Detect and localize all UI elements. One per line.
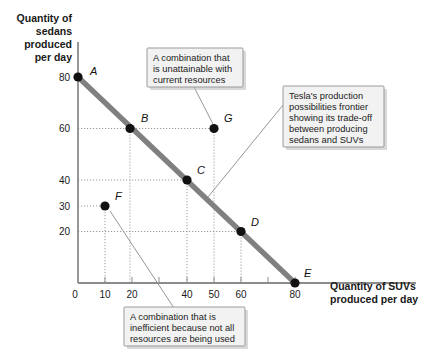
callout-frontier-line-2: possibilities frontier: [289, 102, 368, 112]
y-axis-title-line-3: produced: [24, 38, 72, 50]
y-axis-title-line-2: sedans: [36, 25, 72, 37]
ytick-label-80: 80: [59, 72, 71, 83]
point-label-c: C: [197, 164, 205, 176]
callout-unattainable-line-1: A combination that: [153, 53, 230, 63]
leader-line-unattainable: [193, 85, 213, 124]
leader-line-frontier: [208, 105, 283, 197]
ytick-label-60: 60: [59, 123, 71, 134]
callout-frontier-line-3: showing its trade-off: [289, 113, 372, 123]
x-axis-title-line-1: Quantity of SUVs: [330, 280, 416, 292]
xtick-label-20: 20: [126, 289, 138, 300]
callout-frontier: Tesla's production possibilities frontie…: [283, 86, 387, 150]
ytick-label-20: 20: [59, 226, 71, 237]
callout-unattainable: A combination that is unattainable with …: [147, 48, 246, 90]
chart-figure: A B C D E F G 80 60 40 30 20 0 10 20 40 …: [0, 0, 434, 364]
ppf-chart-canvas: A B C D E F G 80 60 40 30 20 0 10 20 40 …: [0, 0, 434, 364]
callout-frontier-line-4: between producing: [289, 124, 368, 134]
point-label-e: E: [304, 267, 312, 279]
callout-unattainable-line-2: is unattainable with: [153, 64, 232, 74]
point-label-a: A: [89, 65, 97, 77]
axes: [78, 42, 416, 283]
leader-line-inefficient: [110, 211, 174, 308]
data-point-c[interactable]: [182, 175, 191, 184]
x-axis-title: Quantity of SUVs produced per day: [330, 280, 418, 305]
xtick-label-60: 60: [235, 289, 247, 300]
data-point-d[interactable]: [236, 227, 245, 236]
ytick-label-30: 30: [59, 201, 71, 212]
callout-unattainable-line-3: current resources: [153, 75, 226, 85]
point-label-d: D: [251, 216, 259, 228]
y-axis-title-line-4: per day: [35, 51, 73, 63]
xtick-label-40: 40: [181, 289, 193, 300]
callout-frontier-line-1: Tesla's production: [289, 91, 363, 101]
callout-frontier-line-5: sedans and SUVs: [289, 135, 364, 145]
x-axis-title-line-2: produced per day: [330, 293, 418, 305]
y-axis-title-line-1: Quantity of: [17, 12, 73, 24]
data-point-e[interactable]: [290, 278, 299, 287]
point-label-g: G: [224, 112, 233, 124]
ytick-label-40: 40: [59, 175, 71, 186]
callout-inefficient: A combination that is inefficient becaus…: [124, 307, 248, 349]
xtick-label-10: 10: [99, 289, 111, 300]
xtick-label-0: 0: [72, 289, 78, 300]
data-point-b[interactable]: [125, 124, 134, 133]
xtick-label-80: 80: [289, 289, 301, 300]
data-point-f[interactable]: [100, 201, 109, 210]
point-label-f: F: [115, 190, 123, 202]
data-point-a[interactable]: [73, 72, 82, 81]
y-axis-title: Quantity of sedans produced per day: [17, 12, 73, 63]
callout-inefficient-line-1: A combination that is: [130, 312, 216, 322]
xtick-label-50: 50: [208, 289, 220, 300]
leader-lines: [110, 85, 283, 308]
callout-inefficient-line-3: resources are being used: [130, 334, 235, 344]
point-label-b: B: [141, 112, 148, 124]
data-point-g[interactable]: [209, 124, 218, 133]
callout-inefficient-line-2: inefficient because not all: [130, 323, 234, 333]
